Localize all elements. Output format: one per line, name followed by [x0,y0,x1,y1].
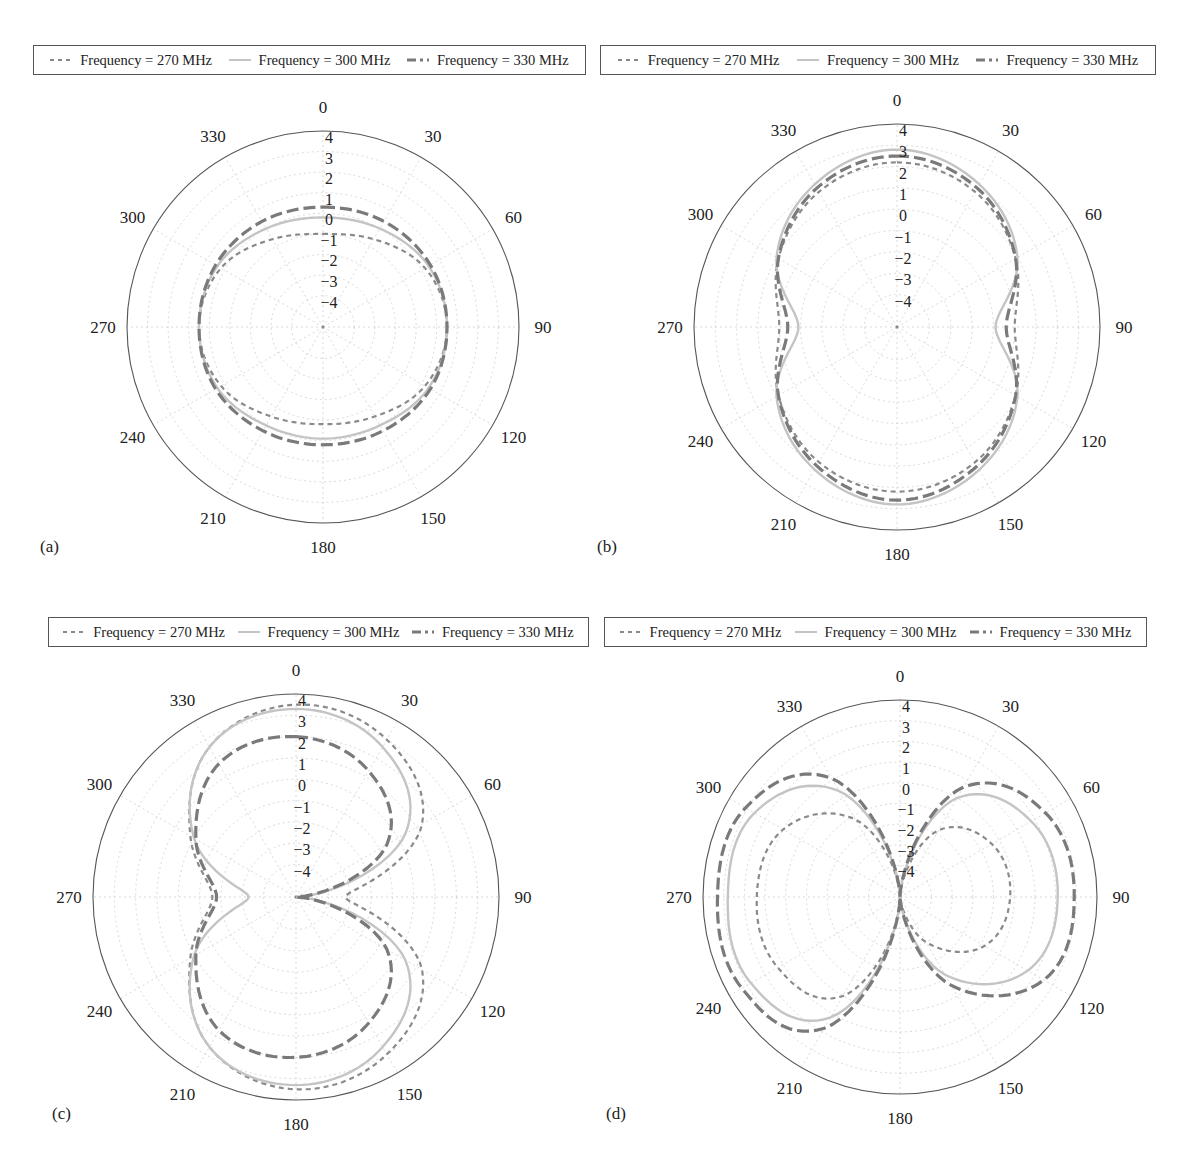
radial-tick-label: −1 [293,799,310,816]
angle-tick-label: 300 [688,205,714,224]
angle-tick-label: 180 [283,1115,309,1134]
radial-tick-label: −3 [894,271,911,288]
polar-chart-d: 43210−1−2−3−4030609012015018021024027030… [666,667,1129,1128]
angle-tick-label: 300 [120,208,146,227]
angle-tick-label: 180 [887,1109,913,1128]
radial-tick-label: 2 [325,170,333,187]
radial-tick-label: −3 [293,841,310,858]
series-curve [728,786,1058,1021]
angle-tick-label: 30 [1002,697,1019,716]
radial-tick-label: 2 [298,735,306,752]
angle-tick-label: 240 [87,1002,113,1021]
angle-tick-label: 0 [893,91,902,110]
radial-tick-label: 0 [899,207,907,224]
angle-tick-label: 270 [666,888,692,907]
angle-tick-label: 330 [777,697,803,716]
radial-tick-label: −4 [320,294,337,311]
radial-tick-label: 3 [899,143,907,160]
radial-tick-label: −1 [894,229,911,246]
radial-tick-label: 1 [902,760,910,777]
radial-tick-label: −1 [320,232,337,249]
angle-tick-label: 180 [884,545,910,564]
angle-tick-label: 210 [777,1079,803,1098]
angle-tick-label: 0 [292,661,301,680]
radial-tick-label: −4 [894,293,911,310]
radial-tick-label: −4 [293,863,310,880]
radial-tick-label: 3 [298,713,306,730]
angle-tick-label: 150 [998,515,1024,534]
radial-tick-label: −3 [320,273,337,290]
polar-chart-c: 43210−1−2−3−4030609012015018021024027030… [56,661,531,1134]
radial-tick-label: −1 [897,801,914,818]
angle-tick-label: 60 [505,208,522,227]
angle-tick-label: 240 [696,999,722,1018]
radial-tick-label: 0 [325,211,333,228]
angle-tick-label: 270 [657,318,683,337]
angle-tick-label: 30 [401,691,418,710]
angle-tick-label: 210 [170,1085,196,1104]
angle-tick-label: 150 [420,509,446,528]
radial-tick-label: 1 [298,756,306,773]
angle-tick-label: 300 [696,778,722,797]
angle-tick-label: 150 [397,1085,423,1104]
angle-tick-label: 270 [90,318,116,337]
angle-tick-label: 90 [1116,318,1133,337]
angle-tick-label: 60 [1083,778,1100,797]
angle-tick-label: 30 [425,127,442,146]
radial-tick-label: 0 [902,781,910,798]
radial-tick-label: 3 [325,150,333,167]
polar-chart-a: 43210−1−2−3−4030609012015018021024027030… [90,98,551,557]
radial-tick-label: −2 [897,822,914,839]
radial-tick-label: 3 [902,719,910,736]
angle-tick-label: 330 [200,127,226,146]
angle-tick-label: 210 [771,515,797,534]
angle-tick-label: 90 [535,318,552,337]
angle-tick-label: 240 [120,428,146,447]
radial-tick-label: 4 [325,129,333,146]
angle-tick-label: 180 [310,538,336,557]
radial-tick-label: −2 [894,250,911,267]
angle-tick-label: 120 [1079,999,1105,1018]
angle-tick-label: 270 [56,888,82,907]
radial-tick-label: 0 [298,777,306,794]
radial-tick-label: 2 [902,739,910,756]
radial-tick-label: 1 [325,191,333,208]
angle-tick-label: 60 [484,775,501,794]
radial-tick-label: 2 [899,165,907,182]
angle-tick-label: 300 [87,775,113,794]
angle-tick-label: 90 [515,888,532,907]
radial-tick-label: 4 [902,698,910,715]
radial-tick-label: 4 [298,692,306,709]
angle-tick-label: 210 [200,509,226,528]
angle-tick-label: 90 [1113,888,1130,907]
angle-tick-label: 0 [319,98,328,117]
radial-tick-label: −4 [897,863,914,880]
radial-tick-label: 1 [899,186,907,203]
polar-charts: 43210−1−2−3−4030609012015018021024027030… [0,0,1185,1155]
angle-tick-label: 120 [480,1002,506,1021]
polar-chart-b: 43210−1−2−3−4030609012015018021024027030… [657,91,1132,564]
angle-tick-label: 150 [998,1079,1024,1098]
angle-tick-label: 240 [688,432,714,451]
radial-tick-label: −2 [293,820,310,837]
radial-tick-label: −3 [897,843,914,860]
radial-tick-label: −2 [320,252,337,269]
angle-tick-label: 60 [1085,205,1102,224]
angle-tick-label: 330 [170,691,196,710]
angle-tick-label: 0 [896,667,905,686]
angle-tick-label: 120 [1081,432,1107,451]
radial-tick-label: 4 [899,122,907,139]
angle-tick-label: 330 [771,121,797,140]
angle-tick-label: 120 [501,428,527,447]
angle-tick-label: 30 [1002,121,1019,140]
